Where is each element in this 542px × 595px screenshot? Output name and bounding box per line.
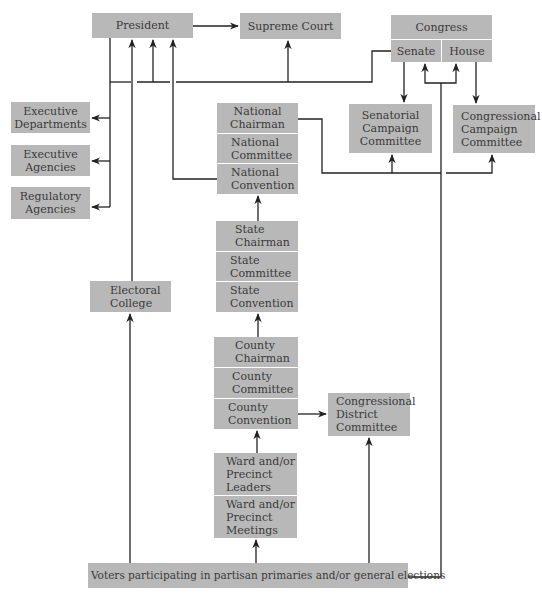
node-congress: Congress xyxy=(391,15,492,39)
node-label: Senatorial xyxy=(362,109,420,122)
node-label: Electoral xyxy=(110,284,161,297)
node-county-committee: County Committee xyxy=(214,368,298,398)
node-ward-leaders: Ward and/or Precinct Leaders xyxy=(214,453,297,495)
node-executive-agencies: Executive Agencies xyxy=(11,145,90,176)
node-label: Committee xyxy=(461,136,522,149)
node-label: Precinct xyxy=(226,468,273,481)
node-county-chairman: County Chairman xyxy=(214,337,298,367)
node-label: Agencies xyxy=(25,161,75,174)
node-label: Convention xyxy=(228,414,292,427)
node-label: Leaders xyxy=(226,481,271,494)
node-label: District xyxy=(336,408,378,421)
node-label: Committee xyxy=(360,135,421,148)
node-voters: Voters participating in partisan primari… xyxy=(88,563,408,588)
node-label: Committee xyxy=(230,267,291,280)
node-label: State xyxy=(230,284,259,297)
node-label: Congressional xyxy=(461,110,541,123)
node-label: National xyxy=(234,105,282,118)
node-label: Agencies xyxy=(25,203,75,216)
node-label: House xyxy=(449,45,484,58)
node-congressional-district-committee: Congressional District Committee xyxy=(328,393,410,436)
node-president: President xyxy=(92,13,193,38)
node-senate: Senate xyxy=(391,40,441,62)
node-label: County xyxy=(235,339,275,352)
node-label: Departments xyxy=(14,118,87,131)
node-label: National xyxy=(231,136,279,149)
node-label: State xyxy=(235,223,264,236)
node-state-chairman: State Chairman xyxy=(216,221,298,251)
node-county-convention: County Convention xyxy=(214,399,298,429)
node-label: County xyxy=(228,401,268,414)
node-label: Chairman xyxy=(235,352,290,365)
node-label: Chairman xyxy=(230,118,285,131)
node-label: Supreme Court xyxy=(248,20,334,33)
node-label: Voters participating in partisan primari… xyxy=(91,569,445,582)
node-supreme-court: Supreme Court xyxy=(240,13,341,39)
node-label: Regulatory xyxy=(20,190,82,203)
node-label: Congressional xyxy=(336,395,416,408)
node-label: Campaign xyxy=(362,122,419,135)
node-regulatory-agencies: Regulatory Agencies xyxy=(11,187,90,219)
node-label: Convention xyxy=(230,297,294,310)
node-label: Executive xyxy=(23,148,78,161)
node-label: College xyxy=(110,297,152,310)
node-national-chairman: National Chairman xyxy=(217,103,298,133)
node-label: Executive xyxy=(23,105,78,118)
node-label: Committee xyxy=(231,149,292,162)
node-label: Senate xyxy=(397,45,436,58)
node-senatorial-campaign-committee: Senatorial Campaign Committee xyxy=(349,104,432,153)
node-electoral-college: Electoral College xyxy=(90,281,171,312)
node-state-committee: State Committee xyxy=(216,252,298,281)
node-national-committee: National Committee xyxy=(217,134,298,163)
node-label: Ward and/or xyxy=(226,455,295,468)
node-congressional-campaign-committee: Congressional Campaign Committee xyxy=(453,105,535,153)
node-national-convention: National Convention xyxy=(217,164,298,194)
node-state-convention: State Convention xyxy=(216,282,298,312)
node-label: Committee xyxy=(232,383,293,396)
node-house: House xyxy=(442,40,492,62)
node-label: National xyxy=(231,166,279,179)
node-label: Congress xyxy=(415,21,467,34)
node-label: Ward and/or xyxy=(226,498,295,511)
node-label: Committee xyxy=(336,421,397,434)
node-label: State xyxy=(230,254,259,267)
node-label: Campaign xyxy=(461,123,518,136)
node-label: Convention xyxy=(231,179,295,192)
node-ward-meetings: Ward and/or Precinct Meetings xyxy=(214,496,297,538)
node-label: Chairman xyxy=(235,236,290,249)
node-label: County xyxy=(232,370,272,383)
node-label: President xyxy=(116,19,169,32)
node-executive-departments: Executive Departments xyxy=(11,102,90,133)
node-label: Meetings xyxy=(226,524,278,537)
node-label: Precinct xyxy=(226,511,273,524)
